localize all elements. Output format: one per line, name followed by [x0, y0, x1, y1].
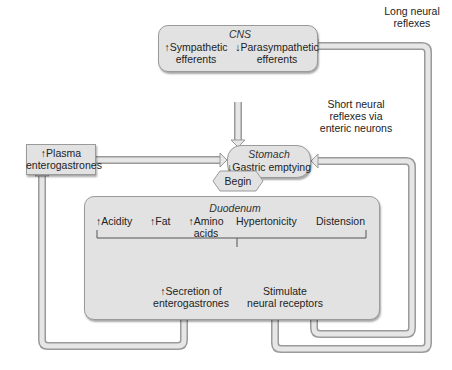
stimuli-bracket [0, 0, 452, 370]
long-note-1: Long neural [372, 5, 452, 17]
long-neural-reflexes-note: Long neural reflexes [372, 5, 452, 29]
short-note-1: Short neural [314, 98, 398, 110]
secretion-line-2: enterogastrones [148, 297, 234, 309]
secretion-enterogastrones: ↑Secretion of enterogastrones [148, 285, 234, 309]
stimulate-line-2: neural receptors [240, 297, 330, 309]
secretion-line-1: ↑Secretion of [148, 285, 234, 297]
short-note-3: enteric neurons [314, 122, 398, 134]
stimulate-line-1: Stimulate [240, 285, 330, 297]
short-neural-reflexes-note: Short neural reflexes via enteric neuron… [314, 98, 398, 134]
short-note-2: reflexes via [314, 110, 398, 122]
long-note-2: reflexes [372, 17, 452, 29]
stimulate-neural-receptors: Stimulate neural receptors [240, 285, 330, 309]
